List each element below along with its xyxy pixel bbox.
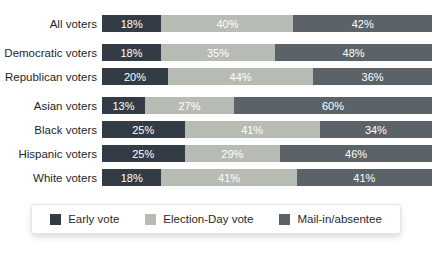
segment-value-label: 46% bbox=[345, 148, 367, 160]
chart-row: Asian voters13%27%60% bbox=[0, 97, 432, 114]
segment-value-label: 18% bbox=[120, 47, 142, 59]
segment-value-label: 41% bbox=[241, 124, 263, 136]
stacked-bar: 18%40%42% bbox=[102, 15, 432, 32]
segment-value-label: 40% bbox=[216, 18, 238, 30]
segment-value-label: 36% bbox=[362, 71, 384, 83]
bar-segment: 20% bbox=[102, 68, 168, 85]
row-label: White voters bbox=[0, 172, 102, 184]
row-label: Democratic voters bbox=[0, 47, 102, 59]
row-label: All voters bbox=[0, 18, 102, 30]
stacked-bar: 18%41%41% bbox=[102, 169, 432, 186]
bar-segment: 35% bbox=[161, 44, 275, 61]
bar-segment: 42% bbox=[293, 15, 432, 32]
bar-segment: 41% bbox=[185, 121, 320, 138]
stacked-bar: 20%44%36% bbox=[102, 68, 432, 85]
bar-segment: 13% bbox=[102, 97, 145, 114]
segment-value-label: 13% bbox=[112, 100, 134, 112]
row-label: Asian voters bbox=[0, 100, 102, 112]
segment-value-label: 41% bbox=[353, 172, 375, 184]
chart-row: All voters18%40%42% bbox=[0, 15, 432, 32]
chart-row: Republican voters20%44%36% bbox=[0, 68, 432, 85]
bar-segment: 46% bbox=[280, 145, 432, 162]
segment-value-label: 18% bbox=[121, 18, 143, 30]
row-label: Hispanic voters bbox=[0, 148, 102, 160]
segment-value-label: 44% bbox=[230, 71, 252, 83]
legend-wrap: Early voteElection-Day voteMail-in/absen… bbox=[0, 204, 432, 234]
segment-value-label: 27% bbox=[178, 100, 200, 112]
bar-segment: 29% bbox=[185, 145, 281, 162]
bar-segment: 27% bbox=[145, 97, 234, 114]
legend-label: Mail-in/absentee bbox=[297, 213, 381, 225]
legend-item: Mail-in/absentee bbox=[279, 213, 381, 225]
stacked-bar: 13%27%60% bbox=[102, 97, 432, 114]
bar-segment: 18% bbox=[102, 44, 161, 61]
legend: Early voteElection-Day voteMail-in/absen… bbox=[31, 204, 401, 234]
segment-value-label: 48% bbox=[343, 47, 365, 59]
segment-value-label: 35% bbox=[207, 47, 229, 59]
chart-row: Democratic voters18%35%48% bbox=[0, 44, 432, 61]
stacked-bar: 18%35%48% bbox=[102, 44, 432, 61]
chart-row: White voters18%41%41% bbox=[0, 169, 432, 186]
bar-segment: 36% bbox=[313, 68, 432, 85]
legend-label: Election-Day vote bbox=[163, 213, 253, 225]
segment-value-label: 34% bbox=[365, 124, 387, 136]
bar-segment: 41% bbox=[297, 169, 432, 186]
segment-value-label: 18% bbox=[121, 172, 143, 184]
bar-segment: 18% bbox=[102, 15, 161, 32]
segment-value-label: 20% bbox=[124, 71, 146, 83]
bar-segment: 25% bbox=[102, 145, 185, 162]
chart-row: Hispanic voters25%29%46% bbox=[0, 145, 432, 162]
segment-value-label: 25% bbox=[132, 148, 154, 160]
legend-item: Early vote bbox=[50, 213, 119, 225]
segment-value-label: 42% bbox=[352, 18, 374, 30]
segment-value-label: 60% bbox=[322, 100, 344, 112]
legend-swatch-icon bbox=[145, 214, 156, 225]
row-label: Republican voters bbox=[0, 71, 102, 83]
bar-segment: 44% bbox=[168, 68, 313, 85]
bar-segment: 60% bbox=[234, 97, 432, 114]
segment-value-label: 41% bbox=[218, 172, 240, 184]
stacked-bar: 25%41%34% bbox=[102, 121, 432, 138]
legend-label: Early vote bbox=[68, 213, 119, 225]
stacked-bar: 25%29%46% bbox=[102, 145, 432, 162]
bar-segment: 25% bbox=[102, 121, 185, 138]
bar-segment: 48% bbox=[275, 44, 432, 61]
chart-row: Black voters25%41%34% bbox=[0, 121, 432, 138]
legend-item: Election-Day vote bbox=[145, 213, 253, 225]
stacked-bar-chart: All voters18%40%42%Democratic voters18%3… bbox=[0, 0, 439, 234]
chart-rows: All voters18%40%42%Democratic voters18%3… bbox=[0, 15, 432, 186]
bar-segment: 40% bbox=[161, 15, 293, 32]
bar-segment: 41% bbox=[161, 169, 296, 186]
segment-value-label: 25% bbox=[132, 124, 154, 136]
legend-swatch-icon bbox=[279, 214, 290, 225]
legend-swatch-icon bbox=[50, 214, 61, 225]
bar-segment: 34% bbox=[320, 121, 432, 138]
bar-segment: 18% bbox=[102, 169, 161, 186]
segment-value-label: 29% bbox=[221, 148, 243, 160]
row-label: Black voters bbox=[0, 124, 102, 136]
